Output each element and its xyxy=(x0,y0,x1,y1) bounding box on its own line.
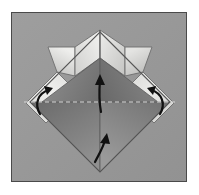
origami-illustration xyxy=(12,13,186,181)
diagram-panel xyxy=(11,12,187,182)
origami-diagram-figure xyxy=(0,0,199,195)
